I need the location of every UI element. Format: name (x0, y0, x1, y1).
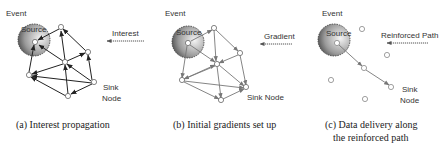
sink-node (388, 84, 393, 89)
sink-node-label: Sink Node (247, 93, 284, 102)
sensor-node (361, 65, 366, 70)
event-label: Event (322, 9, 343, 18)
sensor-node (214, 61, 219, 66)
source-label: Source (326, 29, 352, 38)
node-label: Node (400, 96, 420, 105)
source-label: Source (21, 25, 47, 34)
sensor-node (58, 24, 63, 29)
sensor-node (62, 59, 67, 64)
sink-node (243, 84, 248, 89)
panel-a-interest-propagation: Event Source Interest (6, 9, 144, 131)
diffusion-diagram: Event Source Interest (0, 0, 444, 158)
sensor-node (26, 72, 31, 77)
caption-c-line1: (c) Data delivery along (325, 119, 417, 131)
sink-node (91, 79, 96, 84)
sensor-node (359, 26, 364, 31)
sink-label: Sink (402, 85, 419, 94)
panel-b-initial-gradients: Event Source Grad (165, 9, 295, 131)
sensor-node (179, 77, 184, 82)
caption-b: (b) Initial gradients set up (173, 119, 276, 131)
source-node (334, 40, 339, 45)
sensor-node (237, 50, 242, 55)
event-label: Event (165, 9, 186, 18)
source-label: Source (176, 28, 202, 37)
reinforced-path-edges (339, 45, 389, 85)
sensor-node (65, 93, 70, 98)
gradient-edges (182, 30, 246, 99)
sensor-node (362, 96, 367, 101)
sensor-node (211, 25, 216, 30)
panel-c-reinforced-path: Event Source Reinforced Path Sink Node (… (318, 9, 438, 143)
node-label: Node (102, 94, 122, 103)
event-label: Event (6, 9, 27, 18)
caption-c-line2: the reinforced path (333, 132, 409, 143)
reinforced-path-label: Reinforced Path (381, 31, 438, 40)
sensor-node (384, 52, 389, 57)
sensor-node (328, 77, 333, 82)
source-node (185, 40, 190, 45)
sensor-node (85, 49, 90, 54)
source-node (32, 39, 37, 44)
caption-a: (a) Interest propagation (16, 119, 110, 131)
sink-label: Sink (103, 83, 120, 92)
sensor-node (218, 97, 223, 102)
interest-label: Interest (112, 29, 139, 38)
gradient-label: Gradient (264, 32, 295, 41)
